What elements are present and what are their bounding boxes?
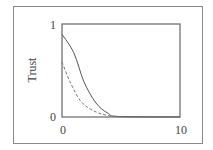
trust-chart: 1 0 0 10 Trust <box>0 0 213 150</box>
series-layer <box>62 34 180 117</box>
series-line-solid <box>62 34 180 117</box>
y-tick-1: 1 <box>50 18 56 32</box>
x-tick-0: 0 <box>60 123 66 137</box>
x-tick-10: 10 <box>175 123 187 137</box>
y-tick-0: 0 <box>50 110 56 124</box>
y-axis-label: Trust <box>25 57 39 83</box>
